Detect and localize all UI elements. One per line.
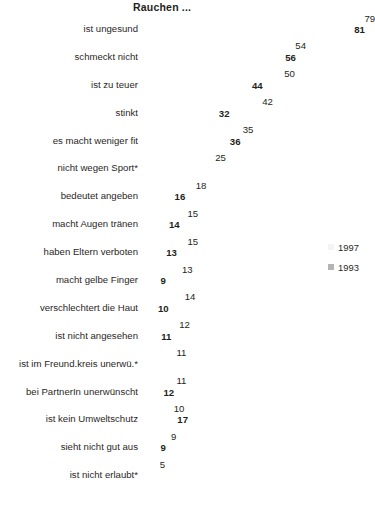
bar-value-label: 54 xyxy=(295,40,306,52)
category-label: ist nicht angesehen xyxy=(0,330,138,342)
category-label: ist kein Umweltschutz xyxy=(0,413,138,425)
bar-value-label: 10 xyxy=(158,303,169,315)
bar-group: 25 xyxy=(144,157,371,185)
category-label: bei PartnerIn unerwünscht xyxy=(0,386,138,398)
chart-row: bedeutet angeben1816 xyxy=(0,185,371,213)
bar-1993: 14 xyxy=(144,224,183,233)
bar-1997: 79 xyxy=(144,19,362,28)
bar-value-label: 79 xyxy=(364,13,375,25)
bar-1993: 9 xyxy=(144,280,169,289)
chart-row: es macht weniger fit3536 xyxy=(0,130,371,158)
category-label: ist nicht erlaubt* xyxy=(0,469,138,481)
bar-1997: 11 xyxy=(144,354,174,363)
bar-value-label: 9 xyxy=(161,275,166,287)
chart-legend: 19971993 xyxy=(328,242,359,282)
chart-row: ist kein Umweltschutz1017 xyxy=(0,408,371,436)
bar-value-label: 14 xyxy=(185,291,196,303)
bar-value-label: 13 xyxy=(166,247,177,259)
category-label: ist im Freund.kreis unerwü.* xyxy=(0,358,138,370)
bar-value-label: 35 xyxy=(243,124,254,136)
bar-group: 5 xyxy=(144,464,371,492)
bar-group: 5456 xyxy=(144,46,371,74)
bar-value-label: 25 xyxy=(215,152,226,164)
bar-1997: 18 xyxy=(144,186,194,195)
bar-group: 3536 xyxy=(144,130,371,158)
bar-1993: 9 xyxy=(144,447,169,456)
category-label: ist zu teuer xyxy=(0,79,138,91)
bar-group: 4232 xyxy=(144,102,371,130)
category-label: bedeutet angeben xyxy=(0,190,138,202)
legend-item-1997[interactable]: 1997 xyxy=(328,242,359,262)
chart-row: ist zu teuer5044 xyxy=(0,74,371,102)
bar-1997: 15 xyxy=(144,242,185,251)
bar-1993: 81 xyxy=(144,29,368,38)
bar-value-label: 17 xyxy=(177,414,188,426)
bar-value-label: 42 xyxy=(262,96,273,108)
bar-1993: 16 xyxy=(144,196,188,205)
category-label: verschlechtert die Haut xyxy=(0,302,138,314)
bar-value-label: 14 xyxy=(169,219,180,231)
chart-row: sieht nicht gut aus99 xyxy=(0,436,371,464)
bar-value-label: 11 xyxy=(176,375,186,387)
bar-value-label: 18 xyxy=(196,180,207,192)
bar-1993: 36 xyxy=(144,140,244,149)
bar-1993: 56 xyxy=(144,56,299,65)
category-label: stinkt xyxy=(0,107,138,119)
bar-group: 1017 xyxy=(144,408,371,436)
bar-group: 99 xyxy=(144,436,371,464)
legend-label: 1993 xyxy=(338,262,359,274)
bar-1997: 10 xyxy=(144,409,172,418)
bar-1993: 17 xyxy=(144,419,191,428)
chart-row: stinkt4232 xyxy=(0,102,371,130)
bar-value-label: 32 xyxy=(219,108,230,120)
bar-value-label: 11 xyxy=(176,347,186,359)
category-label: haben Eltern verboten xyxy=(0,246,138,258)
bar-value-label: 12 xyxy=(164,387,175,399)
bar-value-label: 81 xyxy=(354,24,365,36)
bar-1997: 54 xyxy=(144,47,293,56)
legend-swatch-icon xyxy=(328,244,334,250)
bar-value-label: 16 xyxy=(175,191,186,203)
bar-1997: 25 xyxy=(144,158,213,167)
chart-title: Rauchen ... xyxy=(133,1,191,13)
bar-value-label: 44 xyxy=(252,80,263,92)
bar-1997: 5 xyxy=(144,465,158,474)
category-label: nicht wegen Sport* xyxy=(0,162,138,174)
bar-1993: 32 xyxy=(144,112,232,121)
bar-value-label: 50 xyxy=(284,68,295,80)
legend-swatch-icon xyxy=(328,264,334,270)
chart-row: nicht wegen Sport*25 xyxy=(0,157,371,185)
category-label: schmeckt nicht xyxy=(0,51,138,63)
category-label: sieht nicht gut aus xyxy=(0,441,138,453)
bar-value-label: 10 xyxy=(174,403,185,415)
category-label: ist ungesund xyxy=(0,23,138,35)
chart-row: ist nicht erlaubt*5 xyxy=(0,464,371,492)
bar-value-label: 9 xyxy=(161,442,166,454)
chart-row: schmeckt nicht5456 xyxy=(0,46,371,74)
chart-row: bei PartnerIn unerwünscht1112 xyxy=(0,381,371,409)
bar-1993: 13 xyxy=(144,252,180,261)
bar-group: 1514 xyxy=(144,213,371,241)
bar-group: 1816 xyxy=(144,185,371,213)
bar-1993: 44 xyxy=(144,84,266,93)
bar-group: 7981 xyxy=(144,18,371,46)
bar-value-label: 5 xyxy=(160,459,165,471)
bar-1993: 10 xyxy=(144,307,172,316)
bar-group: 5044 xyxy=(144,74,371,102)
bar-value-label: 12 xyxy=(179,319,190,331)
bar-group: 1410 xyxy=(144,297,371,325)
category-label: es macht weniger fit xyxy=(0,135,138,147)
chart-row: macht Augen tränen1514 xyxy=(0,213,371,241)
bar-1993: 12 xyxy=(144,391,177,400)
bar-value-label: 36 xyxy=(230,136,241,148)
legend-item-1993[interactable]: 1993 xyxy=(328,262,359,282)
category-label: macht Augen tränen xyxy=(0,218,138,230)
bar-1997: 42 xyxy=(144,103,260,112)
bar-value-label: 15 xyxy=(187,208,198,220)
bar-1997: 35 xyxy=(144,131,241,140)
chart-rows: ist ungesund7981schmeckt nicht5456ist zu… xyxy=(0,18,371,492)
legend-label: 1997 xyxy=(338,242,359,254)
chart-row: ist ungesund7981 xyxy=(0,18,371,46)
bar-value-label: 15 xyxy=(187,236,198,248)
